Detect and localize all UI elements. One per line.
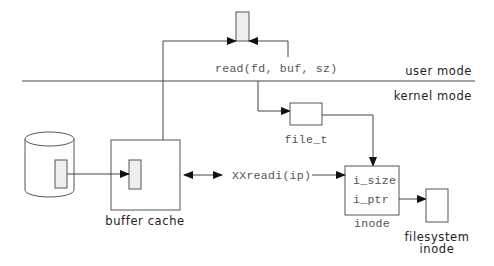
disk-block [55, 160, 67, 188]
user-buffer [236, 12, 249, 41]
syscall-to-buffer-arrow [249, 41, 288, 57]
cache-block [129, 160, 141, 189]
file-t-box [290, 103, 322, 125]
syscall-to-file-arrow [258, 81, 290, 111]
inode-field-i-ptr: i_ptr [353, 193, 389, 206]
buffer-cache-label: buffer cache [105, 214, 184, 228]
buffer-cache-box [111, 140, 180, 210]
filesystem-inode-box [426, 189, 448, 222]
file-t-label: file_t [284, 133, 327, 146]
kernel-mode-label: kernel mode [394, 89, 472, 103]
user-mode-label: user mode [405, 64, 472, 78]
file-to-inode-arrow [322, 115, 373, 166]
diagram-canvas: user mode kernel mode read(fd, buf, sz) … [0, 0, 494, 266]
xxreadi-label: XXreadi(ip) [232, 169, 311, 182]
filesystem-inode-label-line2: inode [420, 242, 455, 256]
syscall-label: read(fd, buf, sz) [215, 62, 337, 75]
inode-label: inode [354, 217, 390, 230]
inode-field-i-size: i_size [353, 174, 396, 187]
